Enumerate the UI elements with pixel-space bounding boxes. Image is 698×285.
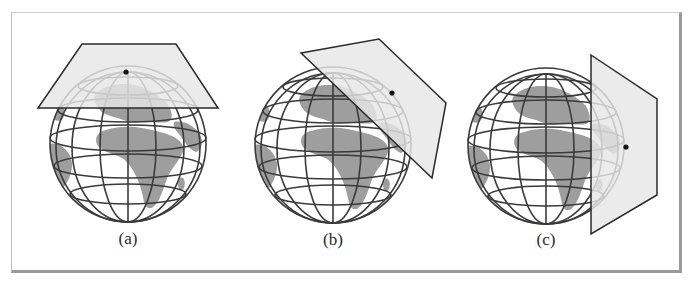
tangent-plane-c: [591, 55, 657, 234]
tangent-plane-a: [38, 44, 218, 108]
panel-b: [254, 39, 446, 223]
caption-a: (a): [98, 229, 158, 249]
tangent-point-a: [123, 69, 128, 74]
tangent-point-b: [389, 90, 394, 95]
tangent-point-c: [623, 144, 628, 149]
caption-b: (b): [303, 230, 363, 250]
caption-c: (c): [516, 230, 576, 250]
panel-c: [467, 55, 657, 234]
panel-a: [38, 44, 218, 222]
